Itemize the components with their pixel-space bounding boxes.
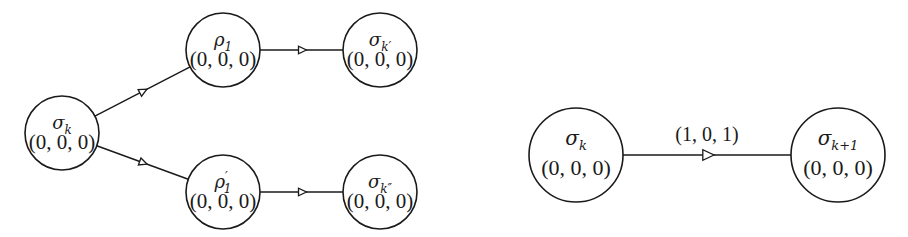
node-sigma_kpp: σk″(0, 0, 0) <box>343 155 417 229</box>
arrowhead-icon <box>299 188 307 196</box>
diagram-branching: σk(0, 0, 0)ρ1(0, 0, 0)ρ′1(0, 0, 0)σk′(0,… <box>25 13 417 229</box>
node-subscript: k <box>579 138 587 153</box>
edge-sigma_k2-to-sigma_k1: (1, 0, 1) <box>623 123 791 160</box>
node-rho_1: ρ1(0, 0, 0) <box>186 13 260 87</box>
arrowhead-icon <box>138 158 147 165</box>
node-vector: (0, 0, 0) <box>347 47 414 71</box>
state-diagram: σk(0, 0, 0)ρ1(0, 0, 0)ρ′1(0, 0, 0)σk′(0,… <box>0 0 908 237</box>
diagram-transition: (1, 0, 1)σk(0, 0, 0)σk+1(0, 0, 0) <box>529 108 885 202</box>
node-sigma_k1: σk+1(0, 0, 0) <box>791 108 885 202</box>
node-vector: (0, 0, 0) <box>803 155 873 180</box>
node-vector: (0, 0, 0) <box>29 130 96 154</box>
node-rho_1p: ρ′1(0, 0, 0) <box>186 155 260 229</box>
node-vector: (0, 0, 0) <box>541 155 611 180</box>
arrowhead-icon <box>703 150 714 161</box>
arrowhead-icon <box>299 46 307 54</box>
edge-rho_1-to-sigma_kp <box>260 46 343 54</box>
edge-sigma_k-to-rho_1 <box>95 67 190 116</box>
edge-sigma_k-to-rho_1p <box>97 146 189 180</box>
node-vector: (0, 0, 0) <box>347 189 414 213</box>
node-vector: (0, 0, 0) <box>190 189 257 213</box>
node-sigma_kp: σk′(0, 0, 0) <box>343 13 417 87</box>
arrowhead-icon <box>138 89 147 96</box>
node-sigma_k2: σk(0, 0, 0) <box>529 108 623 202</box>
node-sigma_k: σk(0, 0, 0) <box>25 96 99 170</box>
edge-label: (1, 0, 1) <box>675 123 738 146</box>
node-vector: (0, 0, 0) <box>190 47 257 71</box>
edge-rho_1p-to-sigma_kpp <box>260 188 343 196</box>
node-subscript: k+1 <box>831 138 858 153</box>
